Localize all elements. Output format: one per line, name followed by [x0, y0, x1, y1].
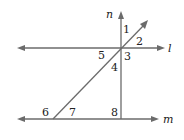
- angle-label-5: 5: [98, 49, 105, 62]
- label-n: n: [106, 8, 113, 21]
- angle-label-3: 3: [124, 50, 131, 63]
- angle-label-6: 6: [42, 106, 49, 119]
- geometry-diagram: l m n 1 2 3 4 5 6 7 8: [0, 0, 184, 140]
- angle-label-1: 1: [123, 23, 130, 36]
- arrow-left-icon: [17, 116, 25, 122]
- angle-label-8: 8: [111, 106, 118, 119]
- arrow-right-icon: [151, 116, 159, 122]
- line-transversal: [53, 20, 148, 119]
- angle-label-7: 7: [69, 106, 76, 119]
- label-m: m: [163, 113, 173, 126]
- arrow-left-icon: [17, 45, 25, 51]
- arrow-right-icon: [157, 45, 165, 51]
- arrow-up-icon: [118, 11, 124, 19]
- angle-label-2: 2: [136, 35, 143, 48]
- line-m: [17, 116, 159, 122]
- angle-label-4: 4: [111, 61, 118, 74]
- label-l: l: [168, 42, 172, 55]
